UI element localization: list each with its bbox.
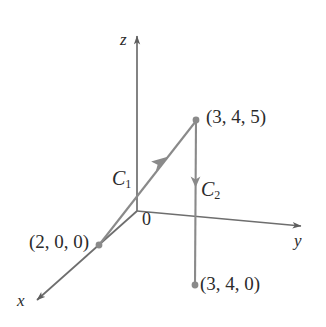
- x-axis-label: x: [17, 292, 25, 309]
- z-axis-label: z: [120, 31, 127, 48]
- curve-label-c2: C2: [201, 179, 220, 199]
- point-label-3-4-0: (3, 4, 0): [200, 274, 260, 293]
- y-axis-label: y: [294, 232, 302, 249]
- curve-label-c2-subscript: 2: [214, 188, 220, 202]
- point-marker-2-0-0: [96, 242, 103, 249]
- coordinate-diagram: z y x 0 (3, 4, 5) (3, 4, 0) (2, 0, 0) C1…: [0, 0, 326, 327]
- point-marker-3-4-5: [193, 117, 200, 124]
- diagram-canvas: [0, 0, 326, 327]
- y-axis-line: [137, 211, 301, 226]
- curve-label-c1-subscript: 1: [125, 177, 131, 191]
- curve-c2-segment: [195, 121, 196, 284]
- curve-label-c2-text: C: [201, 178, 214, 200]
- curve-label-c1-text: C: [112, 167, 125, 189]
- point-marker-3-4-0: [192, 282, 199, 289]
- point-label-2-0-0: (2, 0, 0): [29, 232, 89, 251]
- x-axis-line: [37, 211, 137, 300]
- origin-label: 0: [142, 210, 151, 228]
- curve-label-c1: C1: [112, 168, 131, 188]
- point-label-3-4-5: (3, 4, 5): [206, 107, 266, 126]
